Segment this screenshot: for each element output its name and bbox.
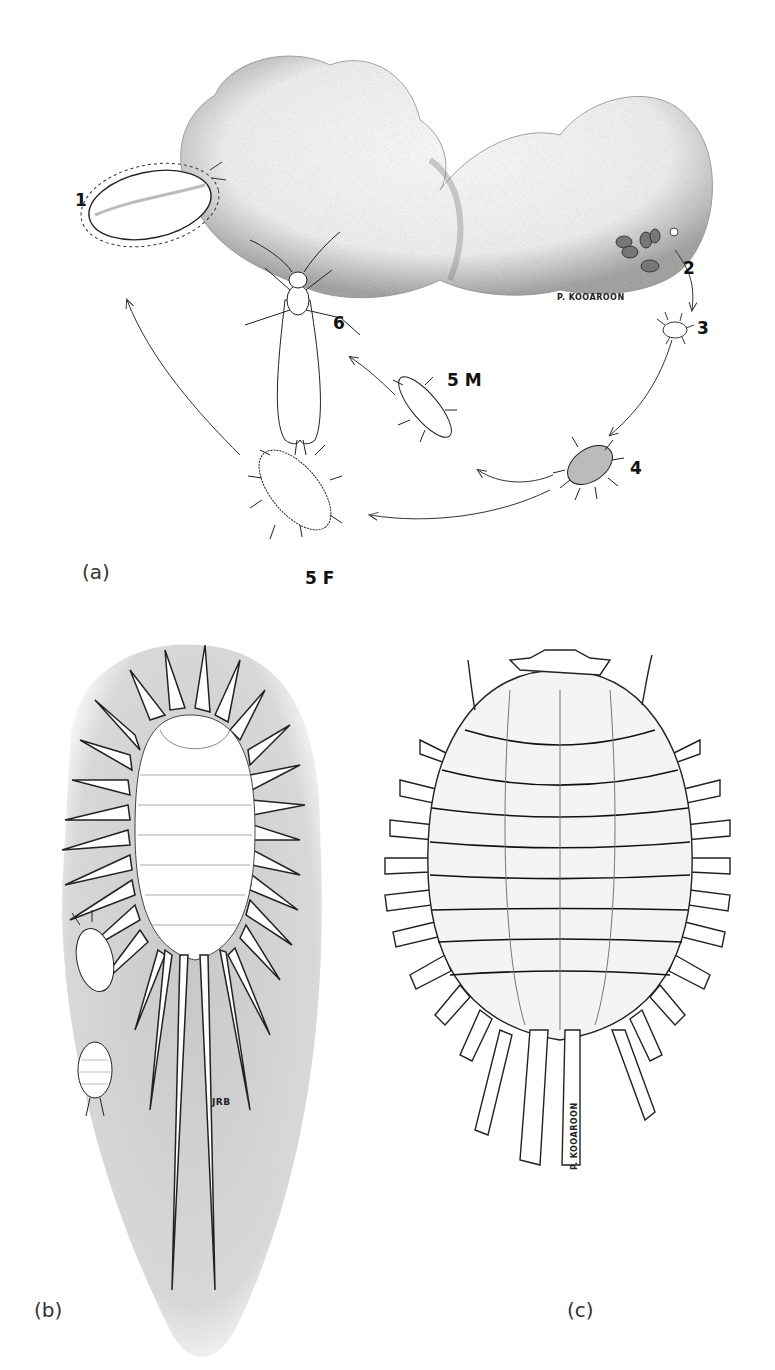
artist-signature-b: JRB xyxy=(212,1097,231,1107)
stage-label-1: 1 xyxy=(75,190,87,210)
stage-label-5f: 5 F xyxy=(305,568,334,588)
insect-body-c xyxy=(385,650,730,1165)
stage-label-5m: 5 M xyxy=(447,370,482,390)
stage-5f-female-nymph xyxy=(246,428,344,542)
stage-label-3: 3 xyxy=(697,318,709,338)
spined-insect-illustration xyxy=(0,630,380,1370)
plant-mass xyxy=(181,56,713,298)
panel-label-a: (a) xyxy=(82,560,110,584)
stage-label-2: 2 xyxy=(683,258,695,278)
panel-b: JRB (b) xyxy=(0,630,380,1370)
panel-label-c: (c) xyxy=(567,1298,594,1322)
panel-label-b: (b) xyxy=(34,1298,62,1322)
panel-c: P. KOOAROON (c) xyxy=(380,630,775,1370)
stage-4-nymph xyxy=(553,437,624,500)
segmented-insect-illustration xyxy=(380,630,775,1370)
stage-3-crawler xyxy=(657,312,694,344)
stage-label-6: 6 xyxy=(333,313,345,333)
artist-signature-a: P. KOOAROON xyxy=(557,293,625,302)
life-cycle-illustration xyxy=(0,0,775,610)
artist-signature-c: P. KOOAROON xyxy=(570,1102,579,1170)
stage-label-4: 4 xyxy=(630,458,642,478)
panel-a: 1 2 3 4 5 M 5 F 6 P. KOOAROON (a) xyxy=(0,0,775,610)
